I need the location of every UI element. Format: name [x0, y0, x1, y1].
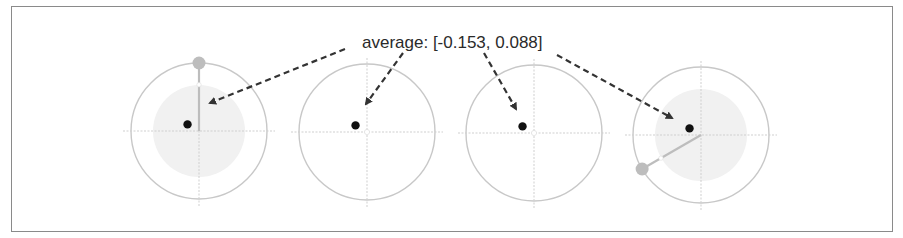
handle-knob	[636, 163, 649, 176]
pointer-arrow	[366, 53, 403, 104]
center-marker	[531, 130, 536, 135]
average-dot	[183, 120, 191, 128]
pointer-arrow	[557, 55, 672, 118]
joystick-panel	[458, 59, 610, 209]
handle-knob	[193, 57, 206, 70]
average-dot	[351, 121, 359, 129]
pointer-arrow	[210, 49, 345, 103]
handle-midpoint-marker	[659, 156, 663, 160]
average-dot	[685, 124, 693, 132]
diagram-canvas: average: [-0.153, 0.088]	[0, 0, 903, 238]
joystick-panel	[291, 58, 443, 208]
joystick-panel	[123, 57, 275, 208]
average-dot	[518, 122, 526, 130]
average-label: average: [-0.153, 0.088]	[362, 33, 543, 52]
joystick-panel	[625, 61, 777, 211]
handle-midpoint-marker	[197, 83, 201, 87]
center-marker	[364, 129, 369, 134]
pointer-arrow	[484, 53, 516, 109]
